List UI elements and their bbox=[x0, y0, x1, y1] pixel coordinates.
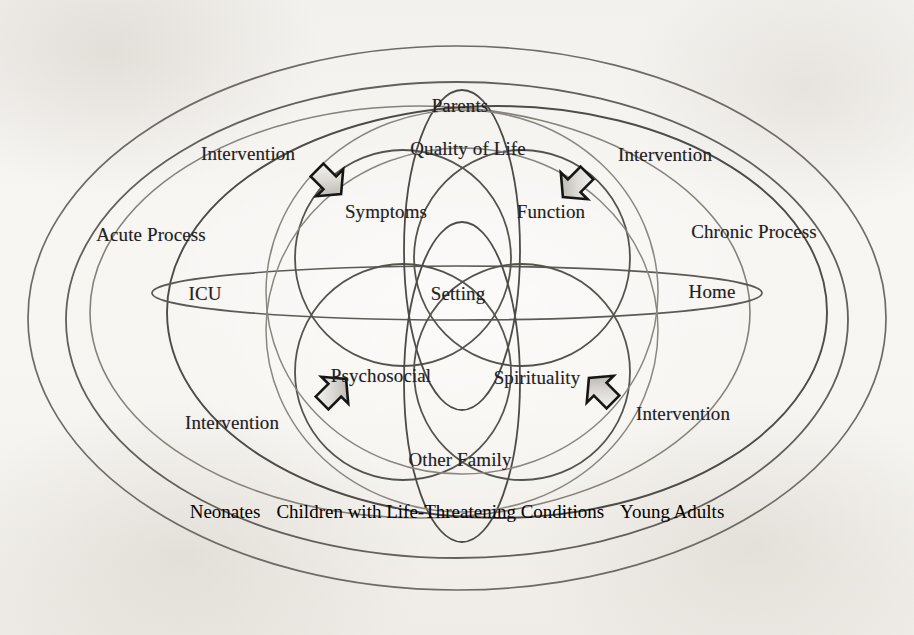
label-parents: Parents bbox=[432, 95, 489, 117]
intervention-arrow-bottom-right bbox=[575, 364, 626, 415]
label-intervention-top-right: Intervention bbox=[618, 144, 712, 166]
caption-children: Children with Life-Threatening Condition… bbox=[276, 501, 604, 523]
function-circle bbox=[414, 150, 630, 366]
label-quality-of-life: Quality of Life bbox=[410, 138, 525, 160]
label-home: Home bbox=[689, 281, 736, 303]
caption-neonates: Neonates bbox=[190, 501, 261, 523]
label-chronic-process: Chronic Process bbox=[691, 221, 817, 243]
label-intervention-top-left: Intervention bbox=[201, 143, 295, 165]
label-other-family: Other Family bbox=[408, 449, 511, 471]
label-icu: ICU bbox=[188, 283, 221, 305]
population-caption: Neonates Children with Life-Threatening … bbox=[190, 501, 725, 523]
label-intervention-bottom-right: Intervention bbox=[636, 403, 730, 425]
label-spirituality: Spirituality bbox=[494, 367, 581, 389]
figure-page: Parents Quality of Life Symptoms Functio… bbox=[0, 0, 914, 635]
label-acute-process: Acute Process bbox=[96, 224, 205, 246]
caption-young-adults: Young Adults bbox=[620, 501, 724, 523]
label-symptoms: Symptoms bbox=[345, 201, 427, 223]
label-function: Function bbox=[517, 201, 585, 223]
label-setting: Setting bbox=[431, 283, 486, 305]
label-intervention-bottom-left: Intervention bbox=[185, 412, 279, 434]
label-psychosocial: Psychosocial bbox=[331, 365, 431, 387]
